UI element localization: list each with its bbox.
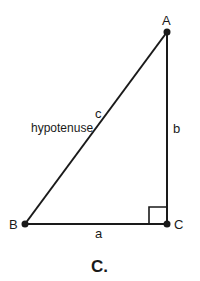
side-b-label: b (173, 121, 180, 136)
vertex-c-dot (164, 221, 171, 228)
vertex-a-label: A (162, 13, 171, 28)
vertex-c-label: C (174, 217, 183, 232)
side-c-label: c (95, 106, 102, 121)
right-angle-marker (149, 207, 167, 224)
vertex-b-label: B (9, 217, 18, 232)
hypotenuse-label: hypotenuse (31, 121, 93, 135)
side-a-label: a (95, 226, 103, 241)
vertex-b-dot (22, 221, 29, 228)
right-triangle-diagram: A B C c hypotenuse b a C. (0, 0, 200, 281)
figure-caption: C. (91, 257, 108, 276)
vertex-a-dot (164, 29, 171, 36)
